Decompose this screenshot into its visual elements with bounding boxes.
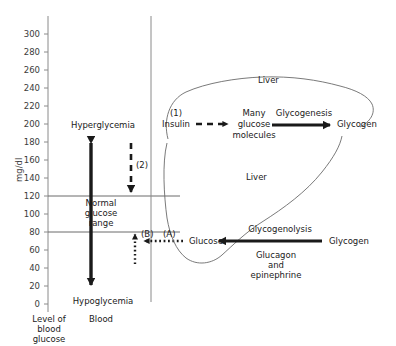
diagram-vector-layer xyxy=(0,0,396,346)
marker-b-label: (B) xyxy=(141,229,153,239)
insulin-label: Insulin xyxy=(157,119,195,129)
normal-range-line2: glucose xyxy=(68,208,134,218)
glycogenolysis-label: Glycogenolysis xyxy=(238,224,322,234)
glycogen-substrate-label: Glycogen xyxy=(329,236,369,246)
axis-caption-line2: blood xyxy=(26,324,72,334)
y-tick-220: 220 xyxy=(16,101,40,111)
y-tick-120: 120 xyxy=(16,191,40,201)
glucagon-line3: epinephrine xyxy=(236,270,316,280)
y-tick-60: 60 xyxy=(16,245,40,255)
y-tick-280: 280 xyxy=(16,47,40,57)
glucose-molecules-line2: glucose xyxy=(232,119,276,129)
glucose-molecules-line1: Many xyxy=(232,108,276,118)
normal-range-line1: Normal xyxy=(68,198,134,208)
marker-1-label: (1) xyxy=(157,108,195,118)
y-tick-100: 100 xyxy=(16,209,40,219)
glycogenesis-label: Glycogenesis xyxy=(272,108,336,118)
y-tick-240: 240 xyxy=(16,83,40,93)
normal-range-line3: range xyxy=(68,218,134,228)
axis-caption-line3: glucose xyxy=(26,334,72,344)
y-tick-20: 20 xyxy=(16,281,40,291)
y-tick-260: 260 xyxy=(16,65,40,75)
glucagon-line1: Glucagon xyxy=(240,250,312,260)
glucose-regulation-diagram: 300 280 260 240 220 200 180 160 140 120 … xyxy=(0,0,396,346)
y-tick-300: 300 xyxy=(16,29,40,39)
y-tick-40: 40 xyxy=(16,263,40,273)
liver-label-lower: Liver xyxy=(246,172,267,182)
y-axis xyxy=(44,16,48,312)
y-tick-80: 80 xyxy=(16,227,40,237)
liver-label-upper: Liver xyxy=(258,75,279,85)
y-tick-180: 180 xyxy=(16,137,40,147)
glycogen-product-label: Glycogen xyxy=(337,119,377,129)
blood-column-caption: Blood xyxy=(68,314,134,324)
hyperglycemia-label: Hyperglycemia xyxy=(63,120,143,130)
y-tick-0: 0 xyxy=(16,299,40,309)
glucose-product-label: Glucose xyxy=(189,236,223,246)
marker-2-label: (2) xyxy=(136,160,148,170)
glucose-molecules-line3: molecules xyxy=(228,130,280,140)
glucagon-line2: and xyxy=(240,260,312,270)
hypoglycemia-label: Hypoglycemia xyxy=(63,296,143,306)
axis-caption-line1: Level of xyxy=(26,314,72,324)
marker-a-label: (A) xyxy=(163,229,175,239)
y-tick-200: 200 xyxy=(16,119,40,129)
y-axis-unit-label: mg/dl xyxy=(14,158,24,182)
